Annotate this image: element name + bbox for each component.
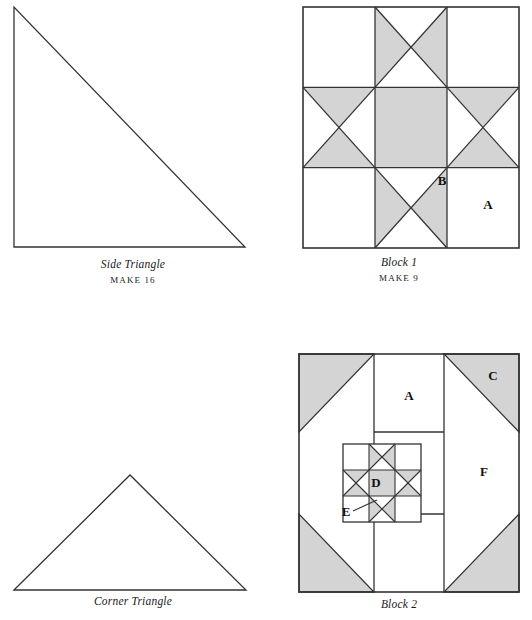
caption-title: Block 2 (266, 598, 532, 610)
caption-title: Side Triangle (0, 258, 266, 270)
block-1-hourglass-left (303, 87, 375, 167)
caption-corner-triangle: Corner Triangle (0, 595, 266, 607)
mini-corner-br (395, 496, 421, 522)
piece-label-D: D (371, 475, 380, 490)
caption-block-1: Block 1 MAKE 9 (266, 256, 532, 283)
block-1-corner-tr (447, 7, 519, 87)
caption-make-count: MAKE 16 (0, 275, 266, 285)
caption-make-count: MAKE 9 (266, 273, 532, 283)
block-1-hourglass-bottom (375, 168, 447, 248)
caption-title: Block 1 (266, 256, 532, 268)
piece-label-E: E (342, 504, 351, 519)
piece-label-A: A (404, 388, 414, 403)
figure-side-triangle: Side Triangle MAKE 16 (0, 0, 266, 310)
side-triangle-shape (14, 7, 245, 247)
figure-block-1: B A Block 1 MAKE 9 (266, 0, 532, 310)
piece-label-A: A (483, 197, 493, 212)
piece-label-C: C (488, 368, 497, 383)
caption-side-triangle: Side Triangle MAKE 16 (0, 258, 266, 285)
caption-block-2: Block 2 (266, 598, 532, 610)
caption-title: Corner Triangle (0, 595, 266, 607)
figure-corner-triangle: Corner Triangle (0, 310, 266, 620)
block-1-corner-bl (303, 168, 375, 248)
piece-label-B: B (438, 173, 447, 188)
mini-corner-tl (343, 444, 369, 470)
side-triangle-drawing (0, 0, 266, 258)
block-1-drawing: B A (266, 0, 532, 256)
block-1-center-square (375, 87, 447, 167)
block-2-drawing: A C F D E (266, 310, 532, 598)
piece-label-F: F (480, 464, 488, 479)
block-1-hourglass-top (375, 7, 447, 87)
block-1-corner-tl (303, 7, 375, 87)
corner-triangle-shape (14, 475, 246, 590)
mini-corner-tr (395, 444, 421, 470)
block-1-hourglass-right (447, 87, 519, 167)
figure-block-2: A C F D E Block 2 (266, 310, 532, 620)
corner-triangle-drawing (0, 310, 266, 595)
